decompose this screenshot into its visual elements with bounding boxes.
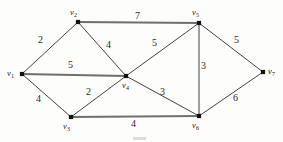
graph-edge-v2-v4 bbox=[78, 22, 126, 76]
edge-weight-v1-v4: 5 bbox=[68, 60, 73, 70]
vertex-label-v2: v2 bbox=[70, 8, 77, 17]
vertex-label-subscript: 1 bbox=[11, 73, 14, 79]
graph-edge-v2-v5 bbox=[78, 22, 199, 23]
edge-weight-v6-v7: 6 bbox=[233, 93, 238, 103]
edges-group bbox=[22, 22, 263, 117]
figure-canvas: v1v2v3v4v5v6v7254742453356 bbox=[0, 0, 283, 142]
edge-weight-v4-v5: 5 bbox=[152, 38, 157, 48]
edge-weight-v5-v7: 5 bbox=[234, 35, 239, 45]
graph-vertex-v7 bbox=[261, 70, 265, 74]
vertex-label-v5: v5 bbox=[192, 8, 199, 17]
vertex-label-v3: v3 bbox=[63, 122, 70, 131]
caption-rule bbox=[133, 137, 146, 140]
graph-edge-v1-v3 bbox=[22, 74, 71, 117]
figure-caption bbox=[0, 133, 283, 142]
graph-vertex-v3 bbox=[69, 115, 73, 119]
edge-weight-v3-v4: 2 bbox=[86, 87, 91, 97]
vertex-label-subscript: 6 bbox=[196, 125, 199, 131]
vertex-label-v4: v4 bbox=[122, 81, 129, 90]
edge-weight-v1-v3: 4 bbox=[36, 94, 41, 104]
graph-edge-v1-v4 bbox=[22, 74, 126, 76]
vertex-label-subscript: 4 bbox=[126, 85, 129, 91]
edge-weight-v2-v4: 4 bbox=[106, 40, 111, 50]
vertex-label-subscript: 7 bbox=[272, 71, 275, 77]
vertex-label-subscript: 2 bbox=[74, 12, 77, 18]
edge-weight-v5-v6: 3 bbox=[201, 61, 206, 71]
graph-svg bbox=[0, 0, 283, 142]
vertex-label-subscript: 5 bbox=[196, 12, 199, 18]
edge-weight-v1-v2: 2 bbox=[38, 35, 43, 45]
graph-vertex-v6 bbox=[197, 114, 201, 118]
graph-vertex-v1 bbox=[20, 72, 24, 76]
vertex-label-v6: v6 bbox=[192, 121, 199, 130]
graph-edge-v6-v7 bbox=[199, 72, 263, 116]
graph-edge-v3-v4 bbox=[71, 76, 126, 117]
vertex-label-v1: v1 bbox=[7, 69, 14, 78]
graph-vertex-v4 bbox=[124, 74, 128, 78]
vertex-label-subscript: 3 bbox=[67, 126, 70, 132]
graph-edge-v5-v7 bbox=[199, 23, 263, 72]
graph-vertex-v2 bbox=[76, 20, 80, 24]
edge-weight-v3-v6: 4 bbox=[131, 119, 136, 129]
edge-weight-v4-v6: 3 bbox=[160, 87, 165, 97]
graph-vertex-v5 bbox=[197, 21, 201, 25]
vertex-label-v7: v7 bbox=[268, 67, 275, 76]
edge-weight-v2-v5: 7 bbox=[135, 11, 140, 21]
graph-edge-v4-v5 bbox=[126, 23, 199, 76]
graph-edge-v3-v6 bbox=[71, 116, 199, 117]
